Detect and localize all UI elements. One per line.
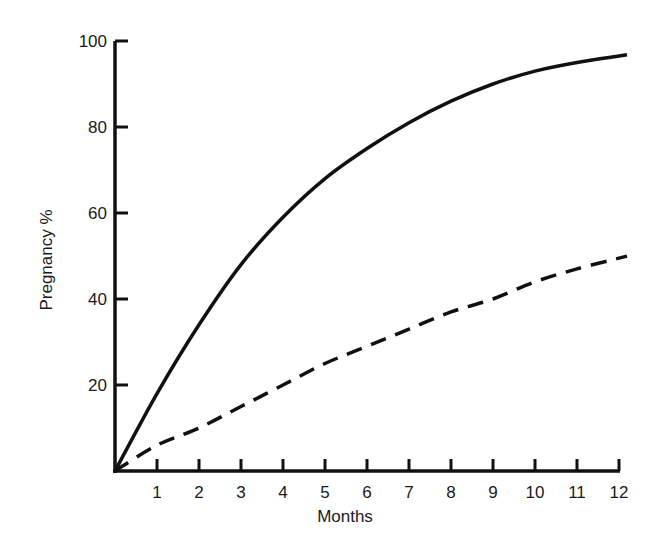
plot-lines [115, 55, 627, 471]
dashed-line [115, 256, 627, 471]
line-chart: 20406080100 123456789101112 Months Pregn… [0, 0, 660, 549]
x-tick-label: 4 [278, 483, 287, 502]
y-tick-label: 80 [88, 118, 107, 137]
x-tick-label: 8 [446, 483, 455, 502]
y-tick-label: 60 [88, 204, 107, 223]
axes [113, 41, 620, 473]
x-axis-title: Months [317, 507, 373, 526]
y-ticks: 20406080100 [79, 32, 128, 395]
x-tick-label: 12 [610, 483, 629, 502]
y-axis-title: Pregnancy % [37, 209, 56, 310]
x-tick-label: 1 [152, 483, 161, 502]
y-tick-label: 20 [88, 376, 107, 395]
x-ticks: 123456789101112 [152, 459, 628, 502]
y-tick-label: 40 [88, 290, 107, 309]
x-tick-label: 3 [236, 483, 245, 502]
chart: 20406080100 123456789101112 Months Pregn… [0, 0, 660, 549]
x-tick-label: 11 [568, 483, 586, 502]
x-tick-label: 7 [404, 483, 413, 502]
x-tick-label: 5 [320, 483, 329, 502]
x-tick-label: 2 [194, 483, 203, 502]
y-tick-label: 100 [79, 32, 107, 51]
solid-line [115, 55, 627, 471]
x-tick-label: 10 [526, 483, 545, 502]
x-tick-label: 9 [488, 483, 497, 502]
x-tick-label: 6 [362, 483, 371, 502]
